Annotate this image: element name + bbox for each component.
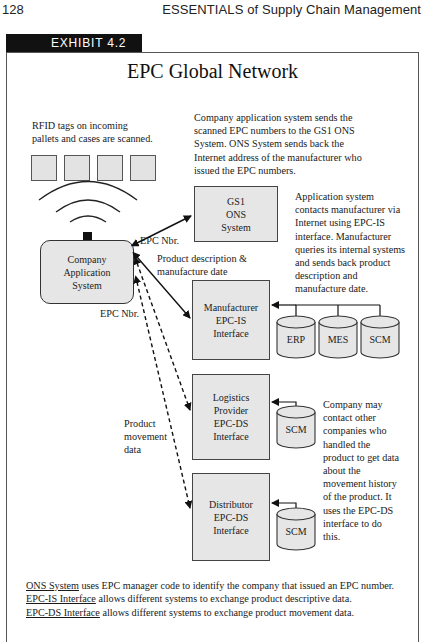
signal-arc-middle bbox=[56, 200, 120, 212]
legend-text: uses EPC manager code to identify the co… bbox=[79, 580, 394, 591]
db-label-erp: ERP bbox=[277, 334, 315, 345]
arrow-company-distributor bbox=[137, 282, 190, 508]
legend-text: allows different systems to exchange pro… bbox=[96, 593, 352, 604]
db-label-scm: SCM bbox=[361, 334, 399, 345]
legend-item-ons: ONS System uses EPC manager code to iden… bbox=[26, 579, 394, 592]
signal-arc-inner bbox=[70, 216, 106, 222]
arrow-company-gs1 bbox=[137, 216, 191, 243]
legend-term: EPC-DS Interface bbox=[26, 607, 100, 618]
db-label-logistics-scm: SCM bbox=[277, 424, 315, 435]
legend-text: allows different systems to exchange pro… bbox=[100, 607, 354, 618]
legend: ONS System uses EPC manager code to iden… bbox=[26, 579, 394, 619]
db-label-distributor-scm: SCM bbox=[277, 526, 315, 537]
legend-term: EPC-IS Interface bbox=[26, 593, 96, 604]
signal-arc-outer bbox=[39, 182, 137, 201]
legend-item-epc-ds: EPC-DS Interface allows different system… bbox=[26, 606, 394, 619]
legend-item-epc-is: EPC-IS Interface allows different system… bbox=[26, 592, 394, 605]
legend-term: ONS System bbox=[26, 580, 79, 591]
arrow-company-manufacturer bbox=[137, 257, 190, 318]
db-label-mes: MES bbox=[319, 334, 357, 345]
arrow-company-logistics bbox=[137, 263, 190, 410]
